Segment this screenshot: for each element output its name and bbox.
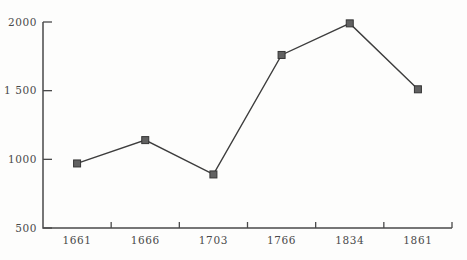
data-point-marker: [414, 86, 421, 93]
y-axis-tick-label: 1 500: [4, 84, 37, 96]
line-chart-figure: 50010001 5002000166116661703176618341861: [0, 0, 467, 260]
data-point-marker: [210, 171, 217, 178]
x-axis-tick-label: 1766: [267, 234, 296, 246]
y-axis-tick-label: 500: [15, 222, 37, 234]
y-axis-tick-label: 2000: [8, 16, 37, 28]
y-axis-tick-label: 1000: [8, 153, 37, 165]
x-axis-tick-label: 1834: [335, 234, 364, 246]
x-axis-tick-label: 1661: [63, 234, 92, 246]
x-axis-tick-label: 1861: [403, 234, 432, 246]
data-point-marker: [74, 160, 81, 167]
x-axis-tick-label: 1703: [199, 234, 228, 246]
data-point-marker: [346, 20, 353, 27]
chart-background: [0, 0, 467, 260]
data-point-marker: [142, 137, 149, 144]
data-point-marker: [278, 51, 285, 58]
line-chart-canvas: 50010001 5002000166116661703176618341861: [0, 0, 467, 260]
x-axis-tick-label: 1666: [131, 234, 160, 246]
